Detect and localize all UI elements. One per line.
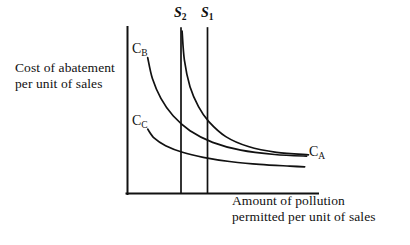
curve-label-c-c: CC <box>132 112 148 129</box>
curve-label-c-b: CB <box>132 40 148 57</box>
standard-label-s1: S1 <box>201 4 214 21</box>
x-axis-caption: Amount of pollutionpermitted per unit of… <box>232 193 376 226</box>
standard-label-s2: S2 <box>174 4 187 21</box>
x-axis-caption-line1: Amount of pollution <box>232 193 345 208</box>
y-axis-caption-line2: per unit of sales <box>15 76 103 91</box>
y-axis-caption-line1: Cost of abatement <box>15 60 115 75</box>
curve-label-c-c-subscript: C <box>141 120 147 130</box>
curve-c-a <box>182 31 308 155</box>
cost-curves-group <box>148 31 309 167</box>
curve-label-c-c-base: C <box>132 113 141 128</box>
standard-label-s2-base: S <box>174 5 182 20</box>
abatement-cost-figure: Cost of abatementper unit of sales Amoun… <box>0 0 410 245</box>
x-axis-caption-line2: permitted per unit of sales <box>232 209 376 224</box>
curve-label-c-a: CA <box>309 143 325 160</box>
curve-label-c-b-base: C <box>132 41 141 56</box>
curve-label-c-b-subscript: B <box>141 48 147 58</box>
curve-c-b <box>148 58 307 156</box>
axes-group <box>127 27 319 194</box>
curve-label-c-a-subscript: A <box>318 151 325 161</box>
curve-label-c-a-base: C <box>309 144 318 159</box>
y-axis-caption: Cost of abatementper unit of sales <box>15 60 115 93</box>
standard-label-s2-subscript: 2 <box>182 12 187 22</box>
standard-label-s1-base: S <box>201 5 209 20</box>
standard-label-s1-subscript: 1 <box>209 12 214 22</box>
standard-lines-group <box>181 28 208 193</box>
curve-c-c <box>148 129 305 167</box>
